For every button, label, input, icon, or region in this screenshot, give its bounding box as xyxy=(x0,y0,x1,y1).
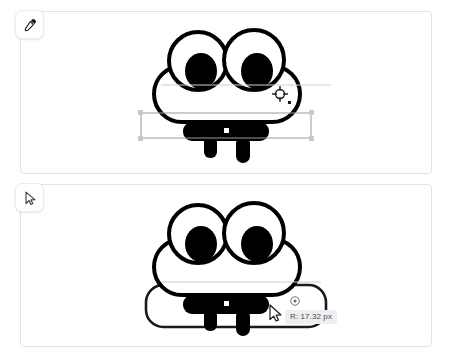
leg-left xyxy=(204,309,217,331)
cloud-face-glyph xyxy=(154,203,300,336)
selection-handle-top-left[interactable] xyxy=(138,110,143,115)
corner-radius-handle[interactable] xyxy=(291,297,299,305)
canvas-bottom[interactable] xyxy=(21,185,431,346)
artwork-top xyxy=(21,12,431,173)
leg-right xyxy=(236,136,250,163)
left-pupil xyxy=(185,53,217,89)
left-pupil xyxy=(185,226,217,262)
right-pupil xyxy=(241,53,273,89)
canvas-top[interactable] xyxy=(21,12,431,173)
eyedropper-icon xyxy=(22,17,38,33)
pointer-tool-button[interactable] xyxy=(15,183,44,212)
arrow-pointer-icon xyxy=(22,190,38,206)
selection-handle-bottom-left[interactable] xyxy=(138,136,143,141)
selection-handle-bottom-right[interactable] xyxy=(309,136,314,141)
center-handle[interactable] xyxy=(224,128,229,133)
pointer-state-panel xyxy=(20,184,432,347)
leg-right xyxy=(236,309,250,336)
right-pupil xyxy=(241,226,273,262)
selection-handle-top-right[interactable] xyxy=(309,110,314,115)
radius-tooltip: R: 17.32 px xyxy=(285,310,337,324)
center-handle[interactable] xyxy=(224,301,229,306)
screenshot-root: R: 17.32 px xyxy=(0,0,450,359)
arrow-cursor-icon xyxy=(270,305,281,321)
eyedropper-state-panel xyxy=(20,11,432,174)
eyedropper-tool-button[interactable] xyxy=(15,10,44,39)
cloud-face-glyph xyxy=(154,30,300,163)
leg-left xyxy=(204,136,217,158)
artwork-bottom xyxy=(21,185,431,346)
